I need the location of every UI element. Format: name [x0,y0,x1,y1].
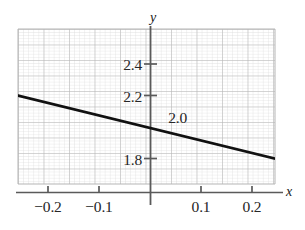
y-tick-label-1-8: 1.8 [98,152,142,168]
chart-x-axis [16,186,283,193]
y-axis-label: y [150,11,156,25]
x-tick-label-0-1: 0.1 [178,199,224,215]
line-chart-plot [0,0,305,230]
x-tick-label-neg-0-2: −0.2 [20,199,76,215]
x-axis-label: x [286,185,292,199]
x-tick-label-0-2: 0.2 [229,199,275,215]
y-tick-label-2-0: 2.0 [155,110,187,126]
x-tick-label-neg-0-1: −0.1 [71,199,127,215]
y-tick-label-2-2: 2.2 [98,89,142,105]
y-tick-label-2-4: 2.4 [98,57,142,73]
chart-figure: y x 2.4 2.2 2.0 1.8 −0.2 −0.1 0.1 0.2 [0,0,305,230]
chart-gridlines [18,29,275,184]
